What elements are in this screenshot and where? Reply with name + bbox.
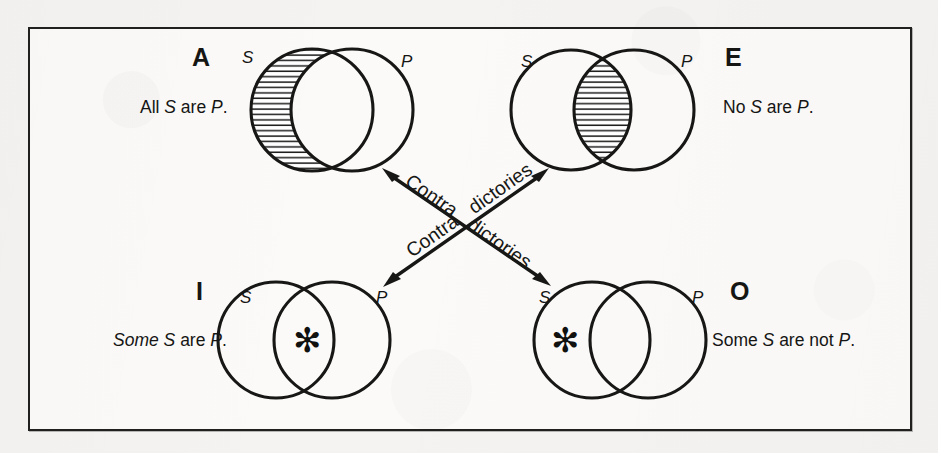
venn-diagram-e bbox=[511, 50, 694, 170]
prop-i-prefix: Some bbox=[113, 330, 164, 350]
venn-e-label-s: S bbox=[521, 52, 532, 72]
prop-i-suffix: . bbox=[222, 330, 227, 350]
figure-root: Contra dictories Contra dictories A All … bbox=[0, 0, 938, 453]
prop-a-subject: S bbox=[164, 97, 176, 117]
prop-e-prefix: No bbox=[723, 97, 750, 117]
proposition-text-o: Some S are not P. bbox=[712, 330, 855, 351]
prop-o-predicate: P bbox=[838, 330, 850, 350]
venn-i-asterisk-icon: ✻ bbox=[293, 323, 322, 357]
venn-i-label-s: S bbox=[240, 288, 251, 308]
venn-e-label-p: P bbox=[681, 52, 692, 72]
venn-diagram-a bbox=[240, 40, 420, 182]
venn-a-label-s: S bbox=[242, 48, 253, 68]
quadrant-letter-a: A bbox=[192, 43, 210, 72]
prop-a-middle: are bbox=[176, 97, 211, 117]
venn-o-circle-p bbox=[590, 282, 706, 398]
prop-a-predicate: P bbox=[211, 97, 223, 117]
venn-a-label-p: P bbox=[401, 52, 412, 72]
venn-a-shaded-s-only bbox=[240, 40, 420, 182]
venn-o-label-s: S bbox=[539, 288, 550, 308]
quadrant-letter-o: O bbox=[730, 277, 750, 306]
proposition-text-i: Some S are P. bbox=[113, 330, 227, 351]
prop-i-subject: S bbox=[164, 330, 176, 350]
venn-o-asterisk-icon: ✻ bbox=[551, 323, 580, 357]
quadrant-letter-i: I bbox=[196, 277, 203, 306]
arrow-label-contra-ao-word2: dictories bbox=[464, 213, 536, 273]
prop-o-middle: are not bbox=[774, 330, 838, 350]
arrow-label-contra-ao-word1: Contra bbox=[402, 169, 463, 221]
diagram-vector-layer: Contra dictories Contra dictories bbox=[0, 0, 938, 453]
prop-e-middle: are bbox=[762, 97, 797, 117]
venn-i-circle-p bbox=[274, 282, 390, 398]
prop-o-prefix: Some bbox=[712, 330, 763, 350]
prop-i-predicate: P bbox=[210, 330, 222, 350]
prop-a-suffix: . bbox=[223, 97, 228, 117]
prop-a-prefix: All bbox=[140, 97, 164, 117]
venn-i-label-p: P bbox=[376, 288, 387, 308]
prop-o-suffix: . bbox=[850, 330, 855, 350]
proposition-text-e: No S are P. bbox=[723, 97, 814, 118]
prop-e-subject: S bbox=[750, 97, 762, 117]
quadrant-letter-e: E bbox=[725, 43, 742, 72]
prop-e-suffix: . bbox=[809, 97, 814, 117]
proposition-text-a: All S are P. bbox=[140, 97, 228, 118]
prop-o-subject: S bbox=[763, 330, 775, 350]
prop-e-predicate: P bbox=[797, 97, 809, 117]
prop-i-middle: are bbox=[175, 330, 210, 350]
venn-o-label-p: P bbox=[692, 288, 703, 308]
